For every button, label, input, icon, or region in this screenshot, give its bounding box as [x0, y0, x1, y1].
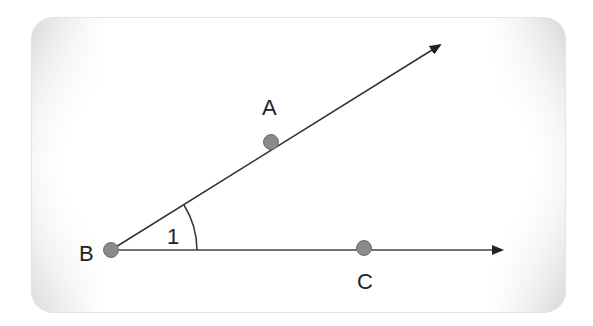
point-a — [264, 135, 279, 150]
angle-label: 1 — [167, 224, 179, 249]
angle-diagram: A B C 1 — [0, 0, 593, 326]
label-b: B — [79, 241, 94, 266]
angle-arc — [184, 205, 197, 250]
label-a: A — [262, 95, 277, 120]
label-c: C — [357, 269, 373, 294]
point-c — [357, 241, 372, 256]
point-b — [104, 243, 119, 258]
